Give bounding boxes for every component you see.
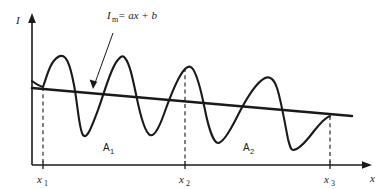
tick-label-x1-base: x: [36, 173, 42, 185]
equation-remainder: = ax + b: [118, 9, 157, 21]
tick-label-x2-subscript: 2: [186, 179, 190, 188]
signal-baseline-diagram: I x x 1 x 2 x 3: [0, 0, 385, 189]
region-label-a1-subscript: 1: [110, 147, 114, 156]
tick-label-x3-subscript: 3: [331, 179, 335, 188]
x-axis-label: x: [369, 172, 375, 184]
tick-label-x3: x 3: [323, 173, 335, 188]
equation-annotation: I m = ax + b: [106, 9, 157, 24]
y-axis-label: I: [15, 14, 21, 26]
region-label-a1-base: A: [103, 142, 110, 153]
region-label-a2: A 2: [243, 142, 254, 156]
tick-droplines-group: [43, 68, 330, 162]
tick-label-x3-base: x: [323, 173, 329, 185]
annotation-leader: [90, 33, 113, 89]
tick-label-x1-subscript: 1: [44, 179, 48, 188]
region-label-a2-base: A: [243, 142, 250, 153]
x-axis-arrowhead: [362, 161, 372, 169]
oscillating-signal-curve: [32, 56, 330, 150]
figure-container: I x x 1 x 2 x 3: [0, 0, 385, 189]
y-axis-arrowhead: [28, 13, 36, 23]
region-label-a1: A 1: [103, 142, 114, 156]
tick-label-x2-base: x: [178, 173, 184, 185]
tick-label-x1: x 1: [36, 173, 48, 188]
region-label-a2-subscript: 2: [250, 147, 254, 156]
tick-label-x2: x 2: [178, 173, 190, 188]
mean-baseline-line: [32, 88, 352, 116]
